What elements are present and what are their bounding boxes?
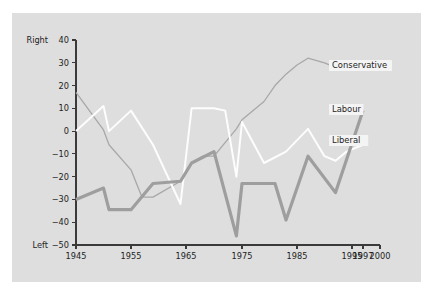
- y-axis-ticks: 403020100−10−20−30−40−50: [52, 35, 76, 250]
- y-axis-right-pole-label: Right: [26, 35, 48, 45]
- chart-root: 403020100−10−20−30−40−50 194519551965197…: [0, 0, 434, 293]
- data-series: [76, 58, 363, 236]
- series-line-liberal: [76, 106, 363, 204]
- y-tick-label: −20: [52, 172, 69, 182]
- y-tick-label: −10: [52, 149, 69, 159]
- legend-item-labour: Labour: [332, 104, 362, 114]
- x-tick-label: 1965: [176, 251, 197, 261]
- y-tick-label: −50: [52, 240, 69, 250]
- series-line-labour: [76, 111, 363, 236]
- legend-item-liberal: Liberal: [332, 135, 360, 145]
- legend-item-conservative: Conservative: [332, 60, 387, 70]
- y-tick-label: 30: [59, 58, 69, 68]
- line-chart: 403020100−10−20−30−40−50 194519551965197…: [0, 0, 434, 293]
- x-tick-label: 1975: [232, 251, 253, 261]
- y-tick-label: 0: [64, 126, 69, 136]
- x-tick-label: 1985: [287, 251, 308, 261]
- x-tick-label: 2000: [370, 251, 391, 261]
- y-tick-label: 20: [59, 81, 69, 91]
- x-tick-label: 1955: [121, 251, 142, 261]
- x-axis-ticks: 19451955196519751985199519972000: [66, 245, 391, 261]
- x-tick-label: 1945: [66, 251, 87, 261]
- chart-legend: ConservativeLabourLiberal: [329, 60, 392, 146]
- y-axis-left-pole-label: Left: [33, 240, 49, 250]
- axis-pole-labels: RightLeft: [26, 35, 48, 250]
- y-tick-label: −40: [52, 217, 69, 227]
- y-tick-label: 40: [59, 35, 69, 45]
- y-tick-label: 10: [59, 103, 69, 113]
- y-tick-label: −30: [52, 194, 69, 204]
